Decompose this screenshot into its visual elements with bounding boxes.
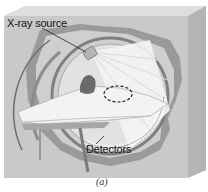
figure-caption: (a) — [96, 176, 108, 187]
x-ray-source-label: X-ray source — [7, 17, 67, 29]
detectors-label: Detectors — [86, 143, 131, 155]
